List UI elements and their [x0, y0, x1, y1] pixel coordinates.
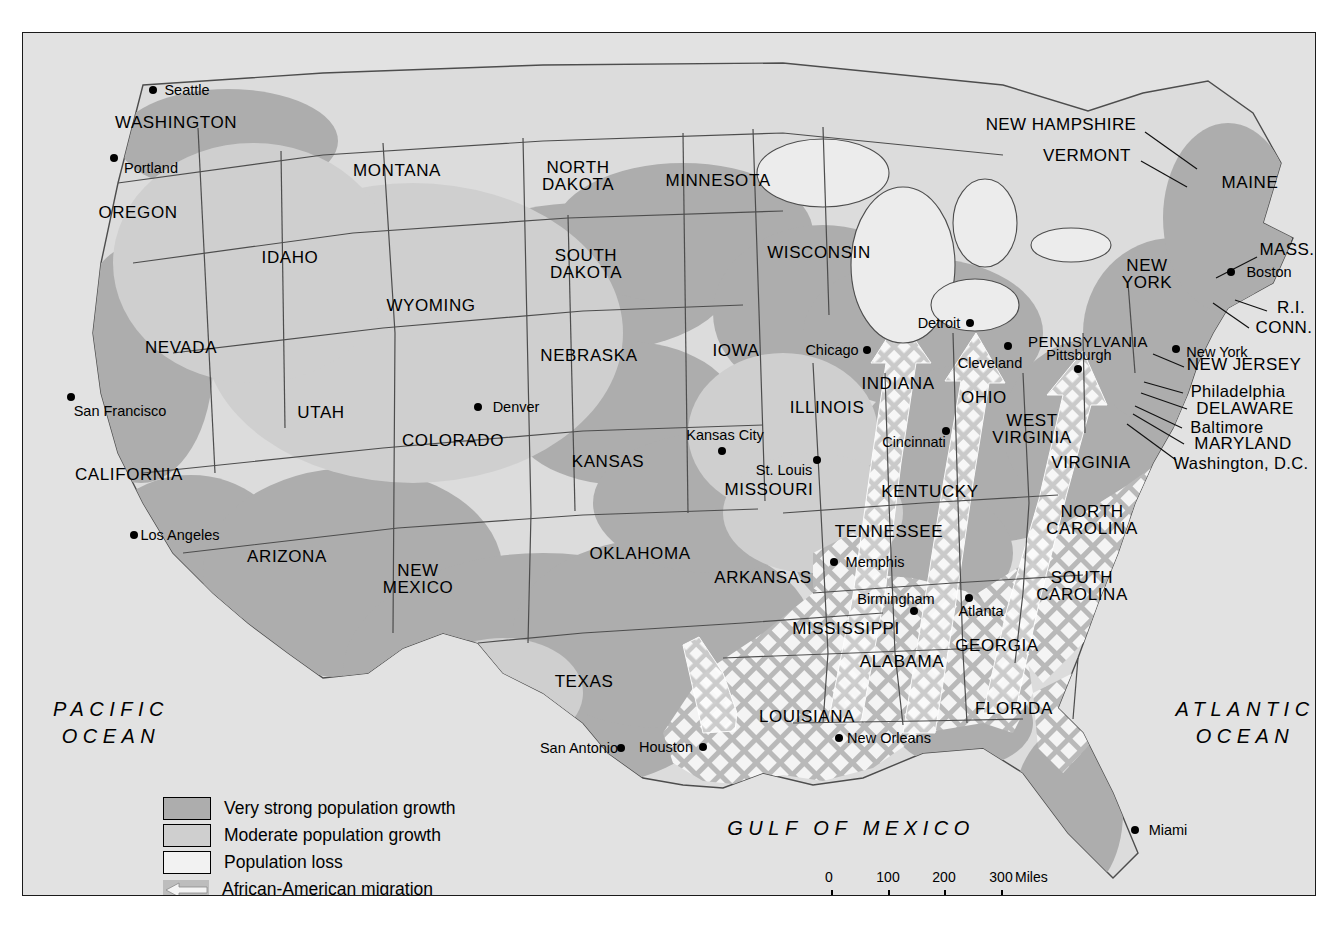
city-dot-new-orleans — [835, 734, 843, 742]
leader-line-washington-dc — [1127, 424, 1176, 460]
city-dot-seattle — [149, 86, 157, 94]
city-dot-miami — [1131, 826, 1139, 834]
city-dot-birmingham — [910, 607, 918, 615]
scale-mile-200: 200 — [932, 869, 955, 885]
callout-leader-lines — [23, 33, 1315, 895]
legend-label-moderate: Moderate population growth — [224, 825, 441, 846]
scale-unit-miles: Miles — [1015, 869, 1048, 885]
city-dot-houston — [699, 743, 707, 751]
scale-bar-graphic — [809, 890, 1059, 896]
city-dot-st-louis — [813, 456, 821, 464]
leader-line-conn — [1213, 303, 1249, 328]
leader-line-new-hampshire — [1145, 132, 1197, 169]
leader-line-delaware — [1141, 393, 1187, 409]
city-dot-portland — [110, 154, 118, 162]
map-page: PACIFICOCEAN ATLANTICOCEAN GULF OF MEXIC… — [0, 0, 1337, 925]
city-dot-detroit — [966, 319, 974, 327]
scale-mile-0: 0 — [825, 869, 833, 885]
scale-miles-labels: 0 100 200 300 Miles — [809, 869, 1059, 889]
city-dot-pittsburgh — [1074, 365, 1082, 373]
legend-item-population-loss: Population loss — [163, 849, 456, 876]
legend-item-moderate-growth: Moderate population growth — [163, 822, 456, 849]
scale-mile-100: 100 — [876, 869, 899, 885]
city-dot-san-francisco — [67, 393, 75, 401]
leader-line-vermont — [1141, 161, 1187, 187]
city-dot-kansas-city — [718, 447, 726, 455]
map-scale-bar: 0 100 200 300 Miles 0 100 200 — [809, 869, 1059, 896]
scale-mile-300: 300 — [989, 869, 1012, 885]
legend-swatch-very-strong — [163, 797, 211, 820]
leader-line-maryland — [1133, 414, 1184, 444]
city-dot-cincinnati — [942, 427, 950, 435]
map-legend: Very strong population growth Moderate p… — [163, 795, 456, 896]
leader-line-philadelphia — [1144, 382, 1183, 393]
migration-arrow-icon — [163, 880, 209, 897]
legend-swatch-moderate — [163, 824, 211, 847]
leader-line-new-jersey — [1153, 354, 1184, 367]
legend-label-population-loss: Population loss — [224, 852, 343, 873]
leader-line-baltimore — [1135, 406, 1182, 428]
city-dot-los-angeles — [130, 531, 138, 539]
leader-line-ri — [1235, 300, 1267, 311]
legend-swatch-migration-arrow — [163, 880, 209, 897]
city-dot-memphis — [830, 558, 838, 566]
city-dot-san-antonio — [617, 744, 625, 752]
city-dot-denver — [474, 403, 482, 411]
city-dot-boston — [1227, 268, 1235, 276]
leader-line-mass — [1216, 257, 1257, 278]
legend-label-migration: African-American migration — [222, 879, 433, 896]
legend-swatch-population-loss — [163, 851, 211, 874]
map-frame: PACIFICOCEAN ATLANTICOCEAN GULF OF MEXIC… — [22, 32, 1316, 896]
city-dot-cleveland — [1004, 342, 1012, 350]
city-dot-new-york-city — [1172, 345, 1180, 353]
city-dot-chicago — [863, 346, 871, 354]
legend-item-african-american-migration: African-American migration — [163, 876, 456, 896]
city-dot-atlanta — [965, 594, 973, 602]
legend-label-very-strong: Very strong population growth — [224, 798, 456, 819]
legend-item-very-strong-growth: Very strong population growth — [163, 795, 456, 822]
